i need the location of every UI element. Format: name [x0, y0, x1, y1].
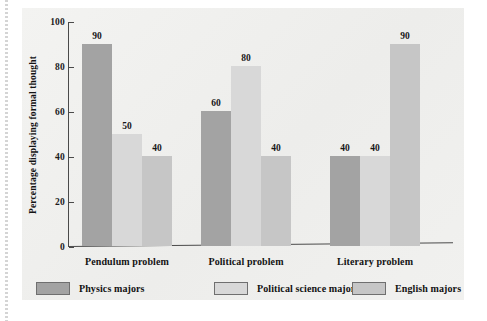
y-tick: 20	[69, 202, 74, 203]
legend-label: English majors	[395, 283, 461, 294]
bar-value-label: 60	[211, 98, 221, 108]
y-tick: 100	[69, 22, 74, 23]
bar: 40	[330, 156, 360, 246]
bar-value-label: 40	[271, 143, 281, 153]
bar: 80	[231, 66, 261, 246]
y-tick-label: 80	[55, 62, 65, 72]
bar: 90	[390, 44, 420, 247]
y-tick: 60	[69, 112, 74, 113]
scan-edge-artifact	[5, 0, 8, 321]
y-tick: 0	[69, 247, 74, 248]
bar-value-label: 50	[122, 121, 132, 131]
bar: 40	[142, 156, 172, 246]
y-tick-label: 40	[55, 152, 65, 162]
legend-swatch	[214, 282, 248, 295]
y-axis-title-text: Percentage displaying formal thought	[28, 55, 38, 213]
bar: 50	[112, 134, 142, 247]
legend-item[interactable]: English majors	[352, 277, 461, 300]
y-tick: 40	[69, 157, 74, 158]
bar-value-label: 90	[92, 31, 102, 41]
y-tick-label: 20	[55, 197, 65, 207]
category-label: Pendulum problem	[85, 256, 169, 267]
y-tick-label: 100	[50, 17, 65, 27]
plot-area: 020406080100 905040608040404090	[68, 22, 453, 247]
y-axis-title: Percentage displaying formal thought	[26, 22, 40, 247]
scanned-page: Percentage displaying formal thought 020…	[0, 0, 487, 321]
bar-value-label: 40	[152, 143, 162, 153]
y-axis-line	[68, 22, 69, 247]
legend-label: Physics majors	[79, 283, 145, 294]
bar: 60	[201, 111, 231, 246]
bar: 40	[360, 156, 390, 246]
bar-value-label: 90	[400, 31, 410, 41]
category-label: Literary problem	[337, 256, 413, 267]
bar-value-label: 40	[340, 143, 350, 153]
y-tick-label: 60	[55, 107, 65, 117]
category-label: Political problem	[208, 256, 283, 267]
y-tick-label: 0	[60, 242, 65, 252]
bar: 40	[261, 156, 291, 246]
bar-value-label: 40	[370, 143, 380, 153]
legend-swatch	[352, 282, 386, 295]
bar: 90	[82, 44, 112, 247]
legend-item[interactable]: Political science majors	[214, 277, 359, 300]
legend-label: Political science majors	[257, 283, 359, 294]
y-tick: 80	[69, 67, 74, 68]
legend-item[interactable]: Physics majors	[36, 277, 145, 300]
legend-swatch	[36, 282, 70, 295]
bar-value-label: 80	[241, 53, 251, 63]
chart-legend: Physics majorsPolitical science majorsEn…	[22, 277, 464, 300]
